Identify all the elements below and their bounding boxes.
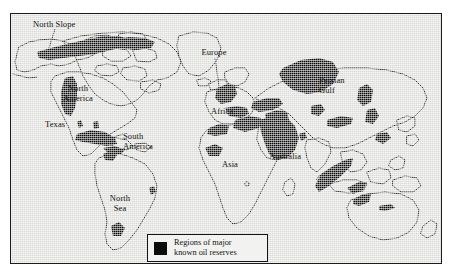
coast-scandinavia: [225, 68, 249, 86]
reserve-libya-egypt: [233, 116, 261, 132]
map-label-texas: Texas: [45, 120, 65, 130]
reserve-china-west: [311, 104, 325, 116]
legend-caption: Regions of major known oil reserves: [174, 238, 237, 257]
leader-gulf-of-mexico: [111, 134, 123, 138]
leader-north-slope: [49, 29, 55, 48]
reserve-texas-a: [77, 120, 83, 128]
reserve-texas-b: [93, 121, 99, 129]
coast-borneo: [367, 168, 391, 184]
map-label-north-sea: Europe: [197, 48, 231, 58]
map-label-asia: Persian Gulf: [319, 76, 345, 95]
figure-root: North Slope North America Texas South Am…: [0, 0, 458, 279]
reserve-china-northeast: [365, 108, 379, 124]
coast-arctic-island-d: [133, 48, 157, 62]
coast-new-guinea: [393, 176, 421, 192]
reserve-java-sea: [347, 182, 367, 194]
reserve-algeria: [207, 124, 229, 136]
map-legend: Regions of major known oil reserves: [147, 234, 268, 262]
reserve-gulf-offshore: [299, 132, 307, 141]
coast-newfoundland: [141, 80, 161, 93]
reserve-gulf-of-mexico: [75, 130, 117, 146]
map-label-persian-gulf: Australia: [263, 152, 307, 162]
coastlines-layer: [13, 32, 437, 250]
coast-hudson-bay: [95, 64, 119, 76]
coast-new-zealand: [421, 220, 437, 238]
map-label-gulf-of-mexico: South America: [123, 132, 153, 151]
reserve-brazil: [149, 186, 156, 195]
reserve-nigeria: [205, 144, 223, 156]
map-label-south-america: North Sea: [97, 194, 143, 213]
reserve-australia-interior: [379, 204, 395, 211]
reserve-northwest-shelf: [353, 194, 371, 206]
reserve-canadian-arctic: [113, 37, 155, 50]
coast-quebec-island: [121, 66, 147, 81]
map-label-europe: Africa: [211, 107, 233, 117]
lake-victoria: [245, 182, 249, 186]
reserve-caspian: [251, 98, 283, 112]
coast-madagascar: [283, 178, 295, 196]
leader-north-sea: [215, 58, 219, 86]
coast-india: [305, 138, 331, 172]
coast-japan: [407, 134, 419, 146]
reserve-argentina: [111, 222, 125, 236]
reserve-indonesia: [315, 158, 353, 192]
reserve-siberia-east: [357, 84, 373, 106]
map-label-africa: Asia: [222, 160, 238, 170]
filled-square-icon: [154, 242, 167, 255]
coast-philippines: [389, 156, 405, 170]
map-label-north-america: North America: [55, 84, 101, 103]
map-label-north-slope: North Slope: [33, 20, 75, 30]
map-frame: North Slope North America Texas South Am…: [10, 13, 442, 264]
reserve-north-sea: [215, 84, 237, 104]
coast-aleutians: [13, 74, 37, 78]
reserve-china-central: [327, 116, 353, 128]
